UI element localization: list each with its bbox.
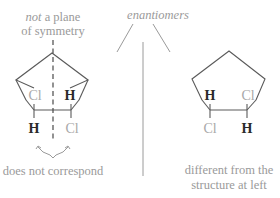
different-note-line2: structure at left — [191, 178, 267, 192]
right-sub-top-right: Cl — [241, 88, 254, 103]
title-enantiomers: enantiomers — [127, 8, 189, 22]
left-sub-bottom-right: Cl — [65, 121, 78, 136]
right-sub-bottom-left: Cl — [203, 121, 216, 136]
does-not-correspond-note: does not correspond — [3, 164, 104, 178]
left-sub-top-left: Cl — [28, 88, 41, 103]
symmetry-note-line2: of symmetry — [21, 24, 85, 38]
not-emphasis: not — [26, 10, 43, 24]
symmetry-note-line1: not a plane — [26, 10, 81, 24]
right-sub-top-left: H — [205, 88, 216, 103]
right-structure: H Cl Cl H different from the structure a… — [185, 51, 274, 192]
correspondence-brace — [38, 147, 68, 158]
left-sub-top-right: H — [65, 88, 76, 103]
left-branch-line — [117, 24, 133, 52]
left-structure: not a plane of symmetry Cl H H Cl does n… — [3, 10, 104, 178]
enantiomer-diagram: enantiomers not a plane of symmetry Cl H… — [0, 0, 280, 198]
symmetry-note-rest: a plane — [42, 10, 81, 24]
left-side-edge-left — [16, 80, 26, 100]
left-sub-bottom-left: H — [29, 121, 40, 136]
right-branch-line — [153, 24, 170, 52]
left-pentagon-upper — [16, 53, 88, 88]
right-sub-bottom-right: H — [242, 121, 253, 136]
different-note-line1: different from the — [185, 163, 274, 177]
